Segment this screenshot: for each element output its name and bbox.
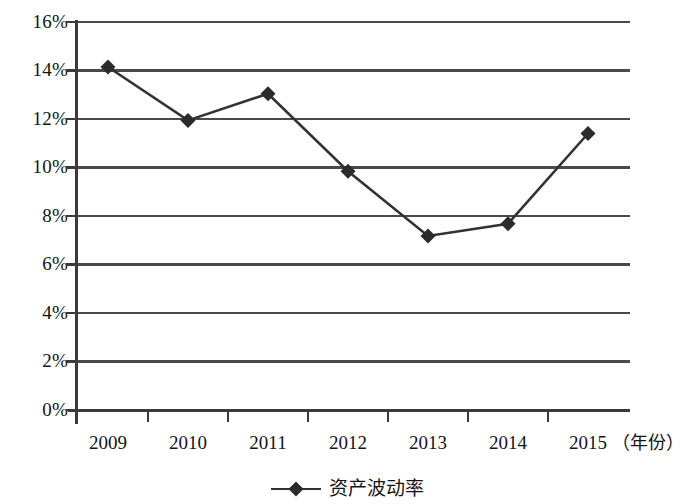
- line-chart: 16% 14% 12% 10% 8% 6% 4% 2% 0%: [0, 0, 692, 504]
- x-axis-unit-label: （年份）: [612, 432, 684, 454]
- legend-label: 资产波动率: [329, 478, 424, 500]
- legend-item-asset-volatility: 资产波动率: [269, 478, 424, 500]
- x-tick-label: 2009: [68, 432, 148, 454]
- x-tick-label: 2011: [228, 432, 308, 454]
- x-tick-label: 2010: [148, 432, 228, 454]
- gridlines: [76, 22, 630, 410]
- x-tick-label: 2013: [388, 432, 468, 454]
- chart-legend: 资产波动率: [0, 474, 692, 504]
- data-point-marker: [101, 60, 116, 75]
- x-tick-label: 2012: [308, 432, 388, 454]
- legend-line-marker-icon: [269, 480, 323, 498]
- x-axis-labels: 2009 2010 2011 2012 2013 2014 2015 （年份）: [0, 432, 692, 466]
- x-tick-label: 2014: [468, 432, 548, 454]
- plot-area: [0, 0, 692, 440]
- x-axis-ticks: [148, 410, 548, 422]
- data-point-marker: [181, 113, 196, 128]
- y-axis-ticks: [66, 22, 76, 410]
